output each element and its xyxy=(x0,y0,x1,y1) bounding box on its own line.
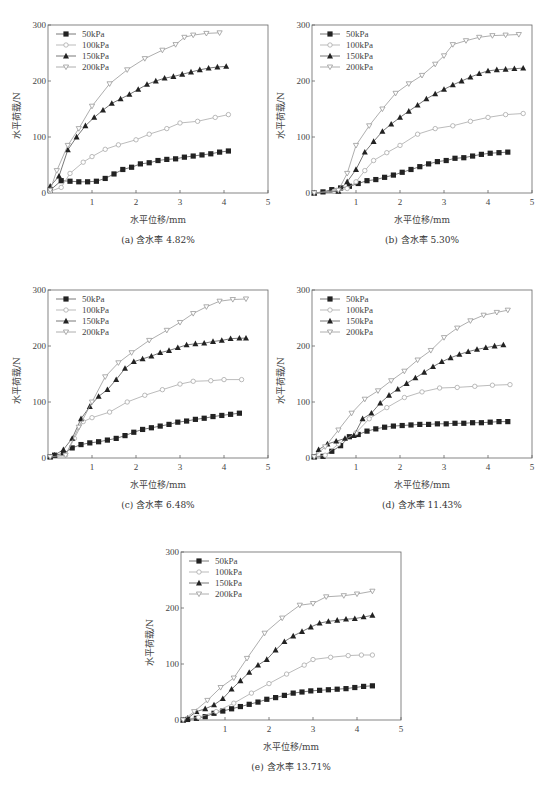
data-point-marker xyxy=(367,417,371,421)
data-point-marker xyxy=(386,392,392,398)
data-point-marker xyxy=(217,299,222,304)
x-tick-label: 1 xyxy=(90,462,95,472)
data-point-marker xyxy=(470,420,475,425)
data-point-marker xyxy=(428,348,433,353)
data-point-marker xyxy=(385,405,389,409)
data-point-marker xyxy=(160,387,164,391)
data-point-marker xyxy=(195,119,199,123)
data-point-marker xyxy=(481,313,486,318)
data-point-marker xyxy=(308,688,313,693)
data-point-marker xyxy=(486,115,490,119)
series-200kpa xyxy=(48,297,249,460)
y-tick-label: 200 xyxy=(297,76,311,86)
data-point-marker xyxy=(360,416,366,422)
data-point-marker xyxy=(290,633,296,639)
legend-label: 50kPa xyxy=(346,29,369,39)
legend-label: 150kPa xyxy=(82,51,109,61)
legend-marker-icon xyxy=(327,296,332,301)
data-point-marker xyxy=(461,421,466,426)
data-point-marker xyxy=(324,595,329,600)
series-200kpa xyxy=(312,33,522,196)
series-50kpa xyxy=(312,150,511,196)
data-point-marker xyxy=(264,697,269,702)
series-150kpa xyxy=(311,65,526,195)
data-point-marker xyxy=(479,152,484,157)
data-point-marker xyxy=(451,124,455,128)
data-point-marker xyxy=(103,147,107,151)
series-200kpa xyxy=(48,31,223,193)
data-point-marker xyxy=(468,319,473,324)
data-point-marker xyxy=(246,669,252,675)
data-point-marker xyxy=(373,177,378,182)
data-point-marker xyxy=(421,369,427,375)
data-point-marker xyxy=(408,422,413,427)
x-tick-label: 1 xyxy=(354,462,359,472)
data-point-marker xyxy=(226,148,231,153)
x-tick-label: 3 xyxy=(178,197,183,207)
data-point-marker xyxy=(59,178,64,183)
data-point-marker xyxy=(370,653,374,657)
data-point-marker xyxy=(284,672,288,676)
y-axis-label: 水平荷载/N xyxy=(274,357,287,404)
data-point-marker xyxy=(379,128,385,134)
data-point-marker xyxy=(147,338,152,343)
data-point-marker xyxy=(255,662,261,668)
data-point-marker xyxy=(226,112,230,116)
x-tick-label: 4 xyxy=(355,724,360,734)
data-point-marker xyxy=(345,186,349,190)
legend-label: 200kPa xyxy=(346,62,373,72)
data-point-marker xyxy=(140,427,145,432)
data-point-marker xyxy=(439,358,445,364)
x-axis-label: 水平位移/mm xyxy=(20,478,296,491)
data-point-marker xyxy=(455,326,460,331)
data-point-marker xyxy=(488,420,493,425)
data-point-marker xyxy=(335,687,340,692)
data-point-marker xyxy=(496,150,501,155)
data-point-marker xyxy=(423,96,429,102)
x-tick-label: 3 xyxy=(311,724,316,734)
x-tick-label: 2 xyxy=(398,197,403,207)
x-tick-label: 2 xyxy=(134,462,139,472)
legend-label: 50kPa xyxy=(82,294,105,304)
data-point-marker xyxy=(149,425,154,430)
legend-marker-icon xyxy=(327,31,332,36)
data-point-marker xyxy=(299,628,305,634)
panel-caption: (b) 含水率 5.30% xyxy=(284,233,552,246)
data-point-marker xyxy=(488,151,493,156)
data-point-marker xyxy=(520,65,526,71)
data-point-marker xyxy=(373,426,378,431)
x-tick-label: 3 xyxy=(442,197,447,207)
data-point-marker xyxy=(244,656,249,661)
x-axis-label: 水平位移/mm xyxy=(20,213,296,226)
series-150kpa xyxy=(47,335,249,459)
data-point-marker xyxy=(85,179,90,184)
series-50kpa xyxy=(181,683,375,722)
legend: 50kPa100kPa150kPa200kPa xyxy=(56,294,109,337)
legend-label: 50kPa xyxy=(215,556,238,566)
data-point-marker xyxy=(191,312,196,317)
data-point-marker xyxy=(68,171,72,175)
data-point-marker xyxy=(426,161,431,166)
legend-marker-icon xyxy=(63,318,69,324)
data-point-marker xyxy=(450,82,456,88)
data-point-marker xyxy=(214,709,218,713)
data-point-marker xyxy=(400,170,405,175)
data-point-marker xyxy=(147,132,151,136)
data-point-marker xyxy=(116,143,120,147)
data-point-marker xyxy=(369,612,375,618)
legend-marker-icon xyxy=(64,308,68,312)
data-point-marker xyxy=(400,423,405,428)
data-point-marker xyxy=(364,429,369,434)
data-point-marker xyxy=(89,104,94,109)
chart-panel-a: 01002003001234550kPa100kPa150kPa200kPa水平… xyxy=(0,0,276,250)
legend-marker-icon xyxy=(64,43,68,47)
y-tick-label: 100 xyxy=(297,132,311,142)
data-point-marker xyxy=(385,150,389,154)
data-point-marker xyxy=(402,369,407,374)
data-point-marker xyxy=(317,688,322,693)
data-point-marker xyxy=(308,624,314,630)
data-point-marker xyxy=(103,176,108,181)
data-point-marker xyxy=(432,91,438,97)
data-point-marker xyxy=(232,701,236,705)
y-axis-label: 水平荷载/N xyxy=(274,92,287,139)
